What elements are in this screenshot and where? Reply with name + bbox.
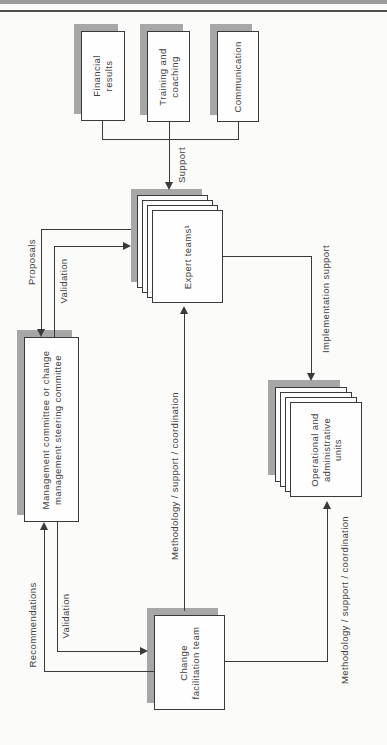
edge-label-methodology-center: Methodology / support / coordination — [169, 388, 181, 564]
edge-validation-lower-line-v — [57, 521, 58, 652]
node-change-facilitation-team: Change facilitation team — [154, 615, 225, 710]
edge-recommendations-line-h — [44, 671, 154, 672]
edge-proposals-line-v — [41, 229, 42, 329]
node-training-and-coaching: Training and coaching — [147, 31, 190, 122]
node-management-committee: Management committee or change managemen… — [24, 337, 79, 522]
node-expert-teams-label: Expert teams¹ — [182, 214, 194, 299]
node-financial-results-label: Financial results — [91, 35, 114, 117]
node-training-and-coaching-label: Training and coaching — [157, 35, 180, 118]
edge-support-stub-financial — [102, 121, 103, 140]
edge-label-validation-lower: Validation — [60, 584, 72, 648]
node-communication-label: Communication — [232, 35, 244, 118]
edge-methodology-center-line — [184, 314, 185, 611]
edge-methodology-right-line-h — [225, 661, 328, 662]
edge-label-recommendations: Recommendations — [27, 579, 39, 671]
edge-implementation-line-v — [311, 256, 312, 373]
edge-validation-upper-line-v — [54, 246, 55, 337]
edge-support-stub-communication — [238, 121, 239, 140]
edge-label-validation-upper: Validation — [58, 249, 70, 313]
arrowhead-support-down — [165, 182, 173, 190]
node-operational-units-stack: Operational and administrative units — [268, 380, 363, 498]
edge-recommendations-line-v — [44, 530, 45, 672]
arrowhead-proposals-down — [37, 329, 45, 337]
edge-label-implementation-support: Implementation support — [320, 228, 332, 370]
edge-implementation-line-h — [222, 256, 312, 257]
edge-label-methodology-right: Methodology / support / coordination — [339, 512, 351, 688]
edge-label-proposals: Proposals — [26, 230, 38, 294]
page-top-rule-thin — [0, 10, 387, 12]
arrowhead-implementation-down — [307, 373, 315, 381]
node-expert-teams-stack: Expert teams¹ — [131, 189, 224, 304]
arrowhead-recommendations-up — [40, 522, 48, 530]
node-management-committee-label: Management committee or change managemen… — [40, 341, 63, 518]
edge-validation-lower-line-h — [57, 651, 140, 652]
edge-label-support: Support — [176, 143, 188, 187]
node-expert-teams: Expert teams¹ — [152, 210, 223, 303]
node-communication: Communication — [217, 31, 259, 122]
arrowhead-validation-upper-right — [123, 242, 131, 250]
node-operational-units-label: Operational and administrative units — [309, 406, 344, 493]
edge-methodology-right-line-v — [327, 509, 328, 662]
arrowhead-methodology-center-up — [180, 306, 188, 314]
arrowhead-validation-lower-right — [140, 647, 148, 655]
node-financial-results: Financial results — [81, 31, 125, 121]
edge-support-line — [169, 121, 170, 183]
edge-proposals-line-h — [41, 229, 131, 230]
page-top-rule-thick — [0, 0, 387, 4]
edge-support-connector — [102, 139, 239, 140]
edge-validation-upper-line-h — [54, 246, 123, 247]
arrowhead-methodology-right-up — [323, 501, 331, 509]
node-operational-units: Operational and administrative units — [290, 402, 362, 497]
figure-page: Financial results Training and coaching … — [0, 0, 387, 745]
node-change-facilitation-team-label: Change facilitation team — [178, 619, 201, 706]
